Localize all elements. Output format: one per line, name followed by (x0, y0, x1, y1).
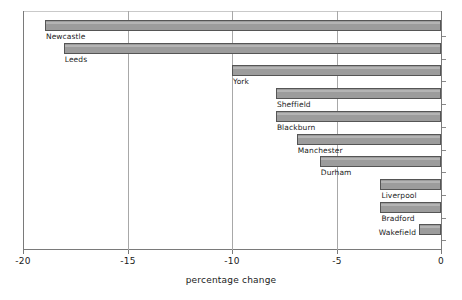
bar-label-blackburn: Blackburn (277, 123, 315, 132)
bar-highlight (381, 204, 440, 206)
x-tick-label-neg15: -15 (108, 256, 148, 266)
bar-york (232, 65, 441, 76)
bar-durham (320, 156, 441, 167)
x-tick-label-neg20: -20 (3, 256, 43, 266)
minor-tick (442, 127, 446, 128)
x-tick-label-neg5: -5 (317, 256, 357, 266)
bar-highlight (277, 90, 440, 92)
bar-label-newcastle: Newcastle (46, 32, 86, 41)
bar-chart: NewcastleLeedsYorkSheffieldBlackburnManc… (0, 0, 462, 300)
plot-frame-right (441, 11, 442, 250)
x-tick-label-0: 0 (421, 256, 461, 266)
x-tick-neg20 (23, 250, 24, 254)
x-tick-label-neg10: -10 (212, 256, 252, 266)
bar-highlight (321, 158, 440, 160)
bar-blackburn (276, 111, 441, 122)
x-tick-neg5 (337, 250, 338, 254)
minor-tick (442, 218, 446, 219)
minor-tick (442, 150, 446, 151)
minor-tick (442, 104, 446, 105)
bar-highlight (420, 226, 440, 228)
x-tick-neg10 (232, 250, 233, 254)
bar-label-sheffield: Sheffield (277, 100, 311, 109)
bar-wakefield (419, 224, 441, 235)
x-tick-neg15 (128, 250, 129, 254)
bar-label-bradford: Bradford (381, 214, 414, 223)
minor-tick (442, 59, 446, 60)
plot-area: NewcastleLeedsYorkSheffieldBlackburnManc… (23, 11, 442, 250)
minor-tick (442, 195, 446, 196)
minor-tick (442, 172, 446, 173)
bar-label-wakefield: Wakefield (379, 228, 416, 237)
bar-highlight (277, 113, 440, 115)
bar-highlight (46, 22, 440, 24)
bar-leeds (64, 43, 441, 54)
bar-newcastle (45, 20, 441, 31)
bar-manchester (297, 134, 441, 145)
plot-frame-left (23, 11, 24, 250)
bar-bradford (380, 202, 441, 213)
bar-label-manchester: Manchester (298, 146, 343, 155)
bar-highlight (298, 136, 440, 138)
bar-highlight (233, 67, 440, 69)
bar-highlight (65, 45, 440, 47)
bar-sheffield (276, 88, 441, 99)
bar-label-york: York (233, 77, 249, 86)
bar-label-liverpool: Liverpool (381, 191, 416, 200)
bar-label-leeds: Leeds (65, 55, 87, 64)
x-axis-title: percentage change (0, 275, 462, 285)
minor-tick (442, 81, 446, 82)
bar-label-durham: Durham (321, 168, 352, 177)
bar-liverpool (380, 179, 441, 190)
bar-highlight (381, 181, 440, 183)
minor-tick (442, 240, 446, 241)
minor-tick (442, 36, 446, 37)
x-tick-0 (441, 250, 442, 254)
